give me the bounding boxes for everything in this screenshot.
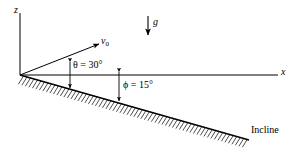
launch-angle-label: θ = 30° [73,60,102,70]
x-axis-label: x [281,67,285,77]
incline-label: Incline [251,125,279,135]
initial-velocity-label: v0 [101,36,109,46]
gravity-label: g [153,17,158,27]
physics-figure: z x g v0 θ = 30° ϕ = 15° Incline [0,0,296,159]
initial-velocity-subscript: 0 [105,40,109,48]
incline-angle-label: ϕ = 15° [123,80,153,90]
z-axis-label: z [14,5,18,15]
